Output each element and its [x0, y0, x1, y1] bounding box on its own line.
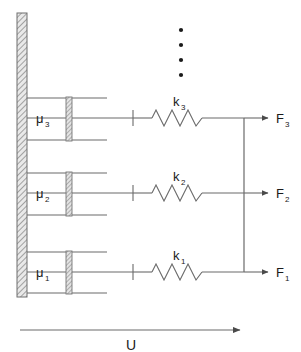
force-sublabel-3: 3 [285, 120, 290, 129]
displacement-indicator: U [20, 330, 240, 352]
dashpot-piston-1 [66, 251, 72, 294]
damper-label-2: μ [36, 186, 44, 201]
force-sublabel-1: 1 [285, 274, 290, 283]
damper-sublabel-3: 3 [45, 120, 50, 129]
maxwell-branch-3: μ 3 k 3 F 3 [27, 94, 290, 141]
dashpot-piston-3 [66, 97, 72, 141]
spring-sublabel-2: 2 [181, 178, 186, 187]
damper-label-3: μ [36, 111, 44, 126]
ellipsis-dot [179, 28, 183, 32]
force-label-3: F [276, 111, 284, 126]
ellipsis-dot [179, 43, 183, 47]
spring-label-1: k [173, 248, 180, 263]
maxwell-model-diagram: μ 3 k 3 F 3 μ 2 [0, 0, 301, 352]
ellipsis-dot [179, 73, 183, 77]
spring-label-3: k [173, 94, 180, 109]
maxwell-branch-2: μ 2 k 2 F 2 [27, 169, 290, 216]
damper-sublabel-2: 2 [45, 195, 50, 204]
force-label-1: F [276, 265, 284, 280]
maxwell-branch-1: μ 1 k 1 F 1 [27, 248, 290, 294]
spring-sublabel-1: 1 [181, 257, 186, 266]
fixed-wall [17, 13, 27, 297]
spring-coil-2 [152, 185, 202, 201]
damper-label-1: μ [36, 265, 44, 280]
spring-coil-1 [152, 264, 202, 280]
force-sublabel-2: 2 [285, 195, 290, 204]
vertical-ellipsis [179, 28, 183, 77]
diagram-canvas: μ 3 k 3 F 3 μ 2 [0, 0, 301, 352]
damper-sublabel-1: 1 [45, 274, 50, 283]
spring-sublabel-3: 3 [181, 103, 186, 112]
wall-hatched-rect [17, 13, 27, 297]
ellipsis-dot [179, 58, 183, 62]
displacement-label: U [126, 337, 136, 352]
dashpot-piston-2 [66, 172, 72, 216]
spring-label-2: k [173, 169, 180, 184]
force-label-2: F [276, 186, 284, 201]
spring-coil-3 [152, 110, 202, 126]
